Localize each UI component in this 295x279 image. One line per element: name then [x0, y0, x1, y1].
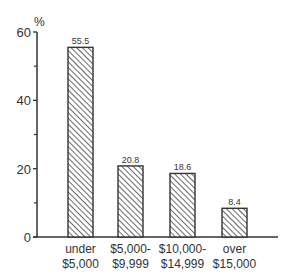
- bar: [170, 173, 195, 237]
- bar-value-label: 55.5: [72, 36, 90, 46]
- bar-chart: 0204060% 55.5under$5,00020.8$5,000-$9,99…: [0, 0, 295, 279]
- y-tick-label: 60: [17, 25, 31, 40]
- x-category-label: $5,000-: [110, 242, 151, 256]
- x-category-label: $14,999: [161, 257, 205, 271]
- bar-value-label: 18.6: [174, 162, 192, 172]
- y-tick-label: 20: [17, 162, 31, 177]
- bar: [68, 47, 93, 237]
- x-category-label: $15,000: [213, 257, 257, 271]
- x-category-label: under: [65, 242, 96, 256]
- bar-value-label: 8.4: [228, 197, 241, 207]
- y-axis-unit: %: [34, 15, 45, 29]
- y-tick-label: 0: [24, 230, 31, 245]
- bar-value-label: 20.8: [122, 155, 140, 165]
- x-category-label: $9,999: [112, 257, 149, 271]
- bar: [118, 166, 143, 237]
- x-category-label: $10,000-: [159, 242, 206, 256]
- x-category-label: $5,000: [62, 257, 99, 271]
- bars: [68, 47, 247, 237]
- y-tick-label: 40: [17, 93, 31, 108]
- x-category-label: over: [223, 242, 246, 256]
- bar: [222, 208, 247, 237]
